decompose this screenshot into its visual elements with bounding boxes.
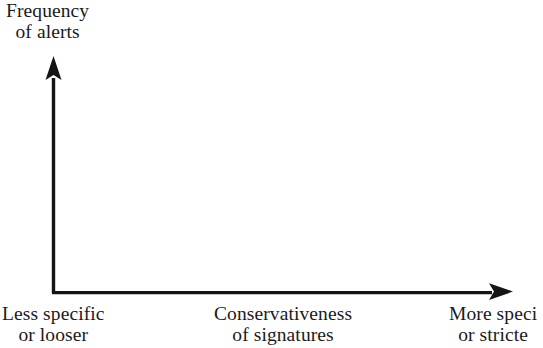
x-axis-right-label-line1: More speci: [449, 303, 537, 324]
x-axis-left-label-line1: Less specific: [2, 303, 105, 324]
y-axis-title-line1: Frequency: [6, 0, 89, 21]
x-axis-right-label-line2: or stricte: [449, 324, 537, 345]
x-axis-left-label-line2: or looser: [2, 324, 105, 345]
x-axis-title-line1: Conservativeness: [214, 303, 352, 324]
axes-diagram: [0, 0, 543, 348]
y-axis-title-line2: of alerts: [6, 21, 89, 42]
y-axis-arrowhead: [46, 56, 62, 80]
x-axis-right-label: More speci or stricte: [449, 303, 537, 345]
y-axis-title: Frequency of alerts: [6, 0, 89, 42]
x-axis-title: Conservativeness of signatures: [214, 303, 352, 345]
x-axis-arrowhead: [489, 283, 513, 300]
figure-canvas: Frequency of alerts Less specific or loo…: [0, 0, 543, 348]
x-axis-left-label: Less specific or looser: [2, 303, 105, 345]
x-axis-title-line2: of signatures: [214, 324, 352, 345]
